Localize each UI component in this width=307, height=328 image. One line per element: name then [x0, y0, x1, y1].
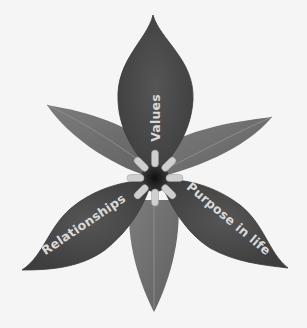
petal-purpose-in-life: Purpose in life: [160, 179, 288, 268]
petal-label-values: Values: [148, 94, 163, 142]
flower-diagram: Values Relationships Purpose in life: [0, 0, 307, 328]
sepal-bottom: [129, 200, 179, 312]
flower-center: [127, 150, 183, 206]
